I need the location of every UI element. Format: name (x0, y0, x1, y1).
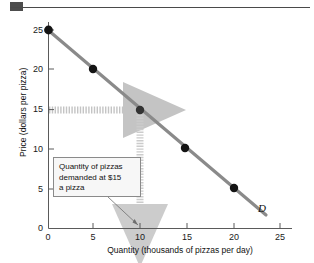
plot-area (0, 0, 314, 263)
x-axis-title: Quantity (thousands of pizzas per day) (48, 246, 312, 255)
y-axis-title: Price (dollars per pizza) (19, 42, 28, 182)
callout-line-3: a pizza (59, 183, 136, 194)
demand-curve-label: D (258, 203, 266, 214)
data-point (181, 144, 189, 152)
data-point-highlight (136, 106, 144, 114)
x-tick-label-10: 10 (130, 233, 150, 242)
axes (49, 22, 293, 229)
callout-line-2: demanded at $15 (59, 173, 136, 184)
y-tick-label-5: 5 (23, 185, 43, 194)
x-axis-ticks (93, 223, 280, 229)
x-tick-label-25: 25 (270, 233, 290, 242)
y-tick-label-25: 25 (23, 26, 43, 35)
quantity-demanded-callout: Quantity of pizzas demanded at $15 a piz… (53, 157, 141, 197)
y-tick-label-0: 0 (23, 224, 43, 233)
data-point (89, 65, 97, 73)
data-point (44, 26, 53, 35)
data-point (230, 184, 238, 192)
callout-leader-line (108, 197, 138, 225)
demand-curve-figure: 25 20 15 10 5 0 0 5 10 15 20 25 Price (d… (0, 0, 314, 263)
x-tick-label-5: 5 (83, 233, 103, 242)
x-tick-label-15: 15 (177, 233, 197, 242)
callout-line-1: Quantity of pizzas (59, 162, 136, 173)
x-tick-label-0: 0 (38, 233, 58, 242)
x-tick-label-20: 20 (224, 233, 244, 242)
